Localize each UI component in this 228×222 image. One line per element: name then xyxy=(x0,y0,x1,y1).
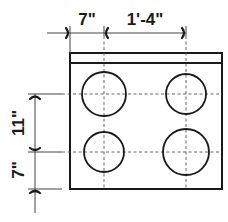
cooktop-dimension-diagram: 7" 1'-4" 11" 7" xyxy=(0,0,228,222)
vertical-dimension: 11" 7" xyxy=(9,94,62,213)
burner-centerlines xyxy=(62,36,222,189)
dim-label-left-offset: 7" xyxy=(78,10,96,29)
dim-label-burner-spacing-vertical: 11" xyxy=(9,110,28,136)
dim-label-front-offset: 7" xyxy=(9,161,28,179)
burners xyxy=(82,72,209,175)
horizontal-dimension: 7" 1'-4" xyxy=(47,10,186,53)
dim-label-burner-spacing-horizontal: 1'-4" xyxy=(127,10,164,29)
